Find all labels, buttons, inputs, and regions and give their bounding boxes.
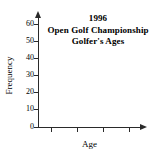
plot-area bbox=[39, 18, 141, 127]
y-tick-mark bbox=[34, 92, 38, 93]
y-tick-label: 10 bbox=[12, 105, 34, 113]
y-tick-label: 30 bbox=[12, 71, 34, 79]
y-tick-label: 0 bbox=[12, 123, 34, 131]
x-tick-mark bbox=[77, 128, 78, 132]
x-tick-mark bbox=[51, 128, 52, 132]
y-tick-label: 40 bbox=[12, 54, 34, 62]
x-tick-mark bbox=[103, 128, 104, 132]
arrow-right-icon bbox=[140, 124, 147, 130]
y-tick-mark bbox=[34, 109, 38, 110]
chart-figure: 1996 Open Golf Championship Golfer's Age… bbox=[0, 0, 153, 159]
x-tick-mark bbox=[129, 128, 130, 132]
y-tick-label: 20 bbox=[12, 88, 34, 96]
y-tick-mark bbox=[34, 75, 38, 76]
y-tick-mark bbox=[34, 24, 38, 25]
x-axis-line bbox=[38, 127, 141, 128]
y-tick-label: 50 bbox=[12, 37, 34, 45]
x-axis-title: Age bbox=[38, 140, 141, 149]
y-tick-mark bbox=[34, 41, 38, 42]
y-tick-mark bbox=[34, 127, 38, 128]
y-tick-label: 60 bbox=[12, 20, 34, 28]
y-axis-line bbox=[38, 18, 39, 128]
arrow-up-icon bbox=[35, 11, 41, 18]
y-axis-title: Frequency bbox=[5, 46, 14, 106]
y-tick-mark bbox=[34, 58, 38, 59]
